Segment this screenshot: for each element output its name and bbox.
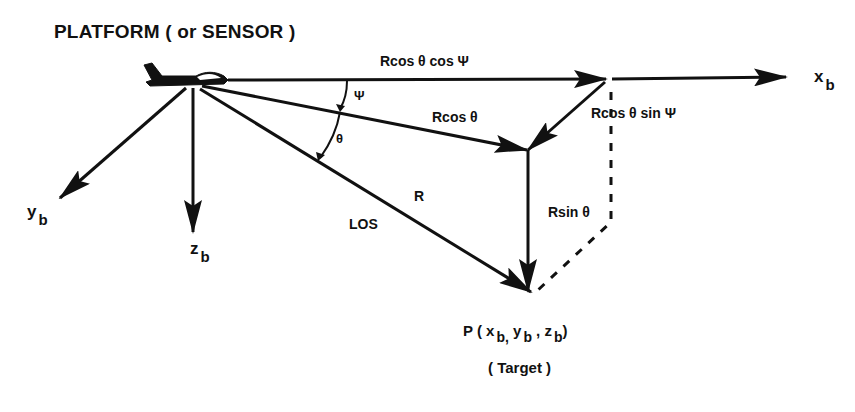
y-component-label: Rcos θ sin Ψ: [591, 106, 676, 120]
x-axis-line: [228, 79, 606, 80]
aircraft-icon: [144, 63, 228, 86]
theta-label: θ: [336, 132, 343, 145]
los-label: LOS: [349, 217, 378, 231]
z-component-label: Rsin θ: [548, 205, 590, 219]
dashed-construction-line: [538, 92, 611, 290]
z-axis-label: zb: [190, 240, 210, 257]
psi-angle-arc: [340, 81, 347, 109]
y-axis-line: [60, 88, 186, 198]
target-caption: ( Target ): [488, 360, 551, 375]
horizontal-projection-label: Rcos θ: [432, 110, 478, 124]
x-component-label: Rcos θ cos Ψ: [380, 54, 469, 68]
psi-label: Ψ: [354, 89, 365, 102]
y-axis-label: yb: [27, 203, 48, 220]
range-label: R: [414, 189, 424, 203]
diagram-title: PLATFORM ( or SENSOR ): [54, 22, 296, 41]
x-axis-label: xb: [814, 68, 835, 85]
target-coordinates-label: P ( xb, yb , zb): [463, 323, 568, 338]
x-axis-extension: [612, 77, 786, 79]
